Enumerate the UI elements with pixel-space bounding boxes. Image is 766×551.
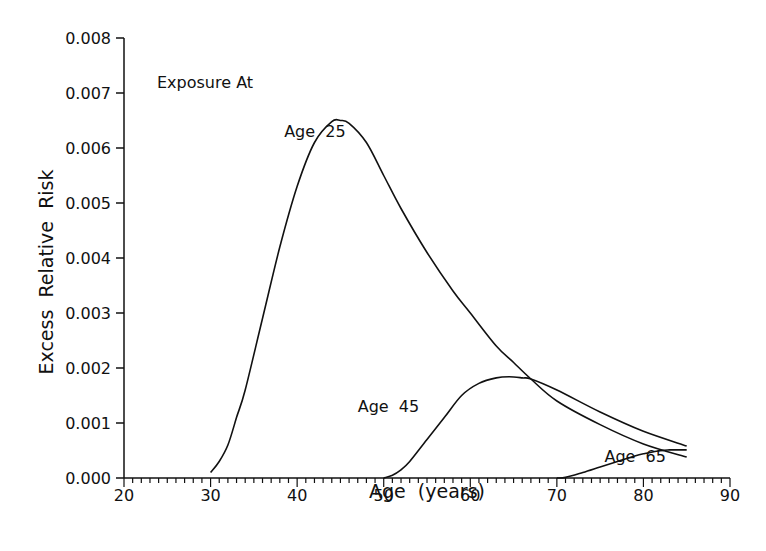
- y-tick-label: 0.005: [65, 194, 111, 213]
- y-tick-label: 0.000: [65, 469, 111, 488]
- x-tick-label: 90: [720, 486, 740, 505]
- y-tick-label: 0.002: [65, 359, 111, 378]
- line-chart: 0.0000.0010.0020.0030.0040.0050.0060.007…: [0, 0, 766, 551]
- series-label: Age 25: [284, 122, 345, 141]
- legend-title: Exposure At: [157, 73, 253, 92]
- y-tick-label: 0.006: [65, 139, 111, 158]
- y-tick-label: 0.007: [65, 84, 111, 103]
- y-tick-label: 0.003: [65, 304, 111, 323]
- series-group: Age 25Age 45Age 65: [211, 120, 687, 479]
- series-label: Age 65: [604, 447, 665, 466]
- x-tick-label: 80: [633, 486, 653, 505]
- x-tick-label: 70: [547, 486, 567, 505]
- axes: 0.0000.0010.0020.0030.0040.0050.0060.007…: [65, 29, 740, 505]
- y-axis-label: Excess Relative Risk: [35, 169, 57, 374]
- x-tick-label: 20: [114, 486, 134, 505]
- x-tick-label: 40: [287, 486, 307, 505]
- y-tick-label: 0.008: [65, 29, 111, 48]
- x-axis-label: Age (years): [369, 480, 485, 502]
- x-tick-label: 30: [200, 486, 220, 505]
- y-tick-label: 0.004: [65, 249, 111, 268]
- y-tick-label: 0.001: [65, 414, 111, 433]
- series-label: Age 45: [358, 397, 419, 416]
